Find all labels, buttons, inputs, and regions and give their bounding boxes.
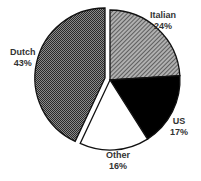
label-other: Other 16% <box>106 150 130 172</box>
label-dutch-value: 43% <box>10 58 36 69</box>
label-other-name: Other <box>106 150 130 161</box>
pie-chart: Italian 24% US 17% Other 16% Dutch 43% <box>0 0 201 181</box>
label-us-name: US <box>170 116 188 127</box>
label-italian-value: 24% <box>150 21 176 32</box>
label-us: US 17% <box>170 116 188 138</box>
label-us-value: 17% <box>170 127 188 138</box>
label-italian: Italian 24% <box>150 10 176 32</box>
label-other-value: 16% <box>106 161 130 172</box>
label-dutch-name: Dutch <box>10 47 36 58</box>
label-italian-name: Italian <box>150 10 176 21</box>
label-dutch: Dutch 43% <box>10 47 36 69</box>
